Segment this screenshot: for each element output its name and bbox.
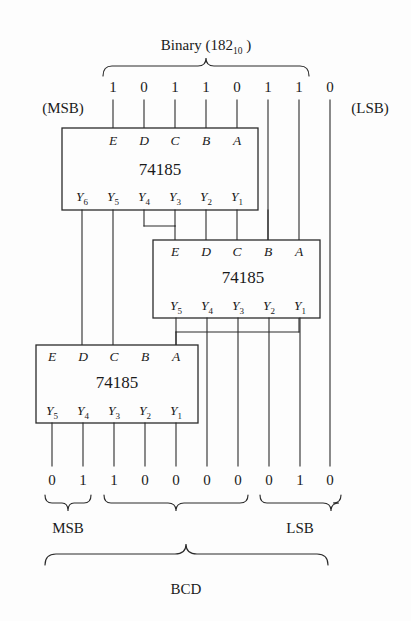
bcd-overall-label: BCD [171, 581, 202, 597]
chip2-input-E: E [170, 244, 180, 259]
bcd-bit-8: 1 [296, 472, 304, 488]
bcd-bit-4: 0 [172, 472, 180, 488]
binary-bit-3: 1 [202, 79, 210, 95]
chip1-input-D: D [138, 133, 149, 148]
bcd-group-lsb-brace [260, 495, 341, 511]
binary-to-bcd-converter-diagram: Binary (18210 ) 1 0 1 1 0 1 1 0 (MSB) (L… [0, 0, 411, 621]
bcd-group-msb-brace [45, 495, 91, 511]
bcd-bit-6: 0 [234, 472, 242, 488]
bcd-bit-3: 0 [141, 472, 149, 488]
msb-caption: (MSB) [42, 100, 84, 117]
binary-bit-4: 0 [233, 79, 241, 95]
bcd-overall-brace [45, 544, 328, 565]
chip3-input-D: D [77, 349, 88, 364]
chip2-name: 74185 [222, 268, 265, 287]
binary-bit-2: 1 [171, 79, 179, 95]
binary-bit-7: 0 [326, 79, 334, 95]
bcd-bit-2: 1 [110, 472, 118, 488]
bcd-group-label-msb: MSB [52, 520, 84, 536]
binary-bit-6: 1 [295, 79, 303, 95]
chip1-input-B: B [202, 133, 210, 148]
chip3-name: 74185 [96, 373, 139, 392]
figure-title-prefix: Binary (182 [161, 37, 233, 54]
chip1-name: 74185 [139, 160, 182, 179]
binary-bit-1: 0 [140, 79, 148, 95]
binary-bit-5: 1 [264, 79, 272, 95]
chip-74185-3[interactable]: 74185 E D C B A Y5 Y4 Y3 Y2 Y1 [36, 345, 198, 423]
chip-74185-1[interactable]: 74185 E D C B A Y6 Y5 Y4 Y3 Y2 Y1 [62, 128, 258, 210]
chip3-input-B: B [141, 349, 149, 364]
chip1-input-E: E [108, 133, 118, 148]
chip2-input-D: D [200, 244, 211, 259]
bcd-bit-7: 0 [265, 472, 273, 488]
chip2-input-C: C [232, 244, 242, 259]
chip2-input-B: B [264, 244, 272, 259]
binary-bit-0: 1 [109, 79, 117, 95]
chip1-input-C: C [170, 133, 180, 148]
chip-74185-2[interactable]: 74185 E D C B A Y5 Y4 Y3 Y2 Y1 [153, 240, 320, 318]
bcd-group-middle-brace [104, 495, 248, 511]
figure-title-subscript: 10 [233, 46, 243, 56]
chip3-input-A: A [171, 349, 181, 364]
figure-title: Binary (18210 ) [161, 37, 251, 56]
chip3-input-E: E [47, 349, 57, 364]
binary-input-brace [103, 58, 309, 76]
bcd-bit-1: 1 [79, 472, 87, 488]
lsb-caption: (LSB) [351, 100, 389, 117]
chip3-input-C: C [109, 349, 119, 364]
chip1-input-A: A [232, 133, 242, 148]
bcd-bit-9: 0 [326, 472, 334, 488]
chip2-input-A: A [294, 244, 304, 259]
bcd-group-label-lsb: LSB [286, 520, 314, 536]
figure-title-suffix: ) [242, 37, 251, 54]
bcd-bit-0: 0 [48, 472, 56, 488]
bcd-bit-5: 0 [203, 472, 211, 488]
